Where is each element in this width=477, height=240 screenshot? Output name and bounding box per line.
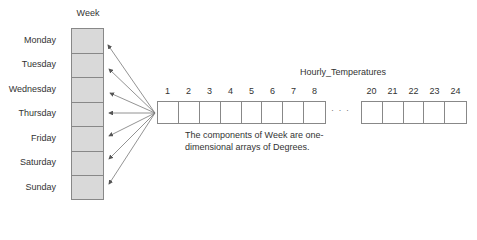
index-label: 20 xyxy=(361,86,382,96)
index-label: 5 xyxy=(241,86,262,96)
array-cell xyxy=(221,102,242,123)
index-label: 23 xyxy=(424,86,445,96)
array-cell xyxy=(262,102,283,123)
arrow-saturday xyxy=(109,113,155,159)
ellipsis: · · · xyxy=(331,105,350,115)
array-cell xyxy=(200,102,221,123)
array-cell xyxy=(404,102,425,123)
array-cell xyxy=(362,102,383,123)
array-cell xyxy=(304,102,325,123)
array-cell xyxy=(445,102,466,123)
array-cell xyxy=(158,102,179,123)
index-label: 22 xyxy=(403,86,424,96)
arrow-tuesday xyxy=(109,69,155,113)
arrow-friday xyxy=(109,113,155,136)
array-cell xyxy=(424,102,445,123)
index-label: 3 xyxy=(199,86,220,96)
index-label: 8 xyxy=(304,86,325,96)
caption: The components of Week are one-dimension… xyxy=(185,129,335,153)
temperature-array-last-segment xyxy=(361,101,467,124)
index-label: 24 xyxy=(445,86,466,96)
array-cell xyxy=(242,102,263,123)
temperature-array-first-segment xyxy=(157,101,326,124)
index-label: 1 xyxy=(157,86,178,96)
index-label: 2 xyxy=(178,86,199,96)
hourly-temperatures-title: Hourly_Temperatures xyxy=(300,67,386,77)
index-label: 4 xyxy=(220,86,241,96)
array-cell xyxy=(283,102,304,123)
arrow-sunday xyxy=(109,113,155,184)
index-label: 21 xyxy=(382,86,403,96)
array-cell xyxy=(179,102,200,123)
index-label: 7 xyxy=(283,86,304,96)
index-label: 6 xyxy=(262,86,283,96)
array-cell xyxy=(383,102,404,123)
